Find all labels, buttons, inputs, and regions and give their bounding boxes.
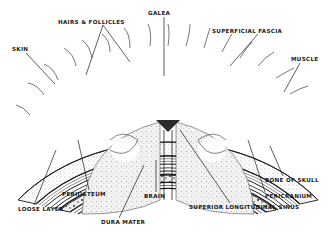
label-superior-longitudinal-sinus: SUPERIOR LONGITUDINAL SINUS [189,205,299,211]
label-skin: SKIN [12,47,28,53]
label-muscle: MUSCLE [291,57,318,63]
label-dura-mater: DURA MATER [101,220,145,226]
label-bone-of-skull: BONE OF SKULL [265,178,319,184]
label-loose-layer: LOOSE LAYER [18,207,64,213]
label-superficial-fascia: SUPERFICIAL FASCIA [212,29,282,35]
scalp-cross-section-diagram [0,0,333,238]
label-pericranium: PERICRANIUM [265,194,312,200]
label-hairs-follicles: HAIRS & FOLLICLES [58,20,125,26]
label-periosteum: PERIOSTEUM [62,192,106,198]
label-brain: BRAIN [144,194,165,200]
label-galea: GALEA [148,11,170,17]
hairs [16,24,308,115]
